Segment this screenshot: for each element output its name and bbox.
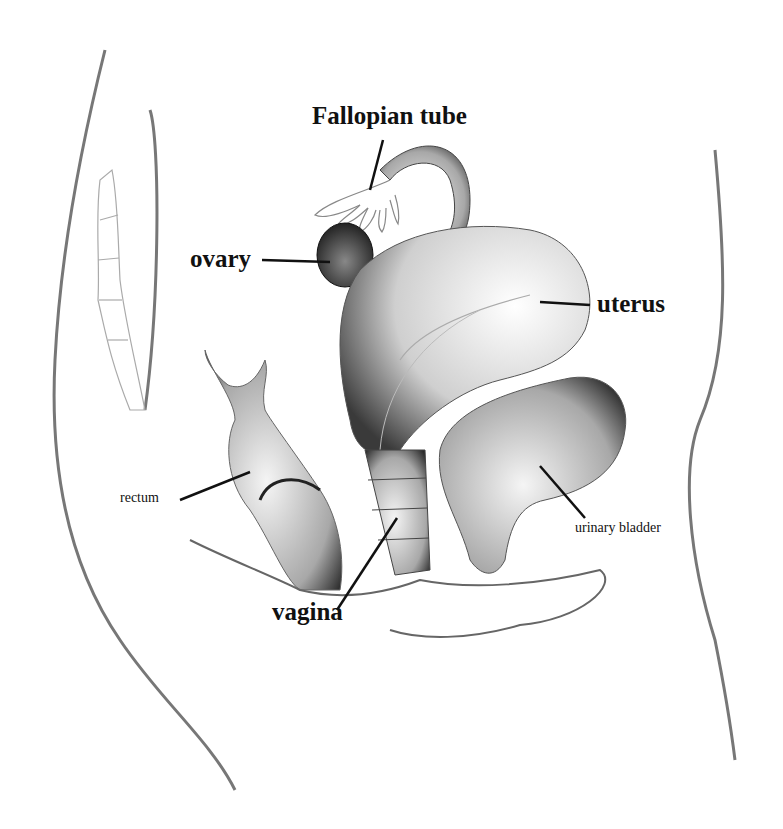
vagina-shape [365, 450, 430, 575]
rectum-shape [205, 350, 342, 590]
label-uterus: uterus [597, 290, 665, 318]
fimbriae [315, 180, 399, 232]
label-fallopian-tube: Fallopian tube [312, 102, 467, 130]
label-rectum: rectum [120, 490, 159, 506]
label-urinary-bladder: urinary bladder [575, 520, 661, 536]
label-vagina: vagina [272, 598, 343, 626]
label-ovary: ovary [190, 245, 251, 273]
urinary-bladder-shape [439, 377, 625, 573]
spine [98, 170, 145, 410]
